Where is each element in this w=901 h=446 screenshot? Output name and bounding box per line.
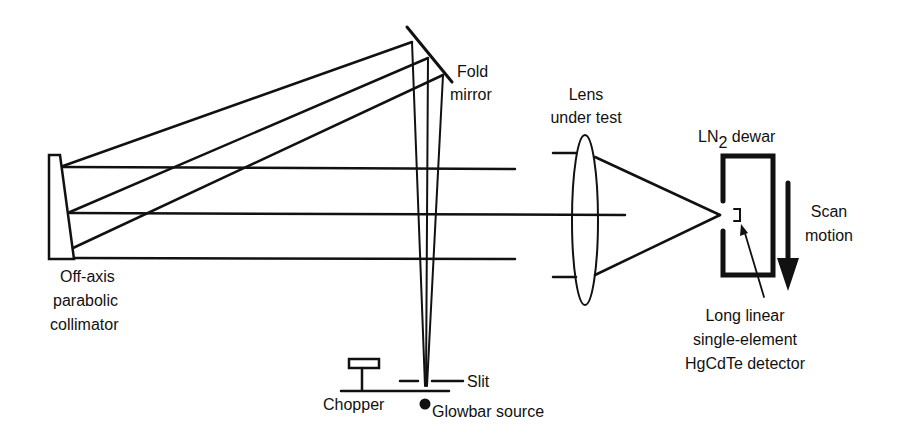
detector-pointer xyxy=(740,224,764,297)
fold-mirror-label-line1: Fold xyxy=(457,63,488,80)
ln2-dewar xyxy=(723,156,773,275)
collimator-label-line3: collimator xyxy=(50,316,119,333)
scan-label-line2: motion xyxy=(805,227,853,244)
lens-label-line2: under test xyxy=(550,109,622,126)
label-slit: Slit xyxy=(467,373,490,390)
label-collimator: Off-axis parabolic collimator xyxy=(50,268,119,333)
scan-motion-arrow xyxy=(777,183,799,291)
label-lens: Lens under test xyxy=(550,86,622,126)
label-dewar: LN2 dewar xyxy=(698,128,776,151)
detector-label-line2: single-element xyxy=(693,331,798,348)
dewar-label-subscript: 2 xyxy=(718,134,727,151)
chopper xyxy=(341,359,449,391)
optical-diagram: Off-axis parabolic collimator Fold mirro… xyxy=(0,0,901,446)
label-scan-motion: Scan motion xyxy=(805,203,853,244)
glowbar-source xyxy=(420,399,431,410)
fold-mirror-label-line2: mirror xyxy=(450,86,492,103)
detector-label-line3: HgCdTe detector xyxy=(685,355,806,372)
lens-label-line1: Lens xyxy=(569,86,604,103)
dewar-label-prefix: LN xyxy=(698,128,718,145)
label-glowbar-source: Glowbar source xyxy=(432,403,544,420)
svg-text:LN2 dewar: LN2 dewar xyxy=(698,128,776,151)
label-chopper: Chopper xyxy=(323,396,385,413)
lens-under-test xyxy=(553,135,598,305)
label-detector: Long linear single-element HgCdTe detect… xyxy=(685,307,806,372)
label-fold-mirror: Fold mirror xyxy=(450,63,492,103)
scan-label-line1: Scan xyxy=(811,203,847,220)
dewar-label-suffix: dewar xyxy=(727,128,776,145)
collimator xyxy=(49,155,74,259)
collimator-label-line2: parabolic xyxy=(53,292,118,309)
diverging-beams xyxy=(63,42,443,248)
hgcdte-detector xyxy=(734,209,740,221)
detector-label-line1: Long linear xyxy=(705,307,785,324)
collimator-label-line1: Off-axis xyxy=(60,268,115,285)
